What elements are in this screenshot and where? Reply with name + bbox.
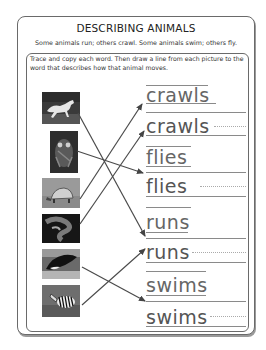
- arrow-zebra-to-runs[interactable]: [82, 249, 145, 305]
- arrow-snake-to-crawls[interactable]: [80, 131, 144, 224]
- arrow-tortoise-to-crawls[interactable]: [80, 104, 142, 199]
- connection-arrows: [0, 0, 266, 350]
- arrow-owl-to-flies[interactable]: [77, 151, 143, 173]
- arrow-horse-to-runs[interactable]: [78, 113, 145, 236]
